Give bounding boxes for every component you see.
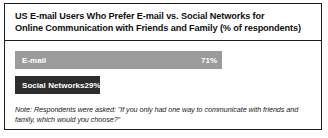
bar-value-email: 71% bbox=[201, 56, 217, 65]
chart-note-line-1: Note: Respondents were asked: "If you on… bbox=[15, 105, 309, 115]
bar-track-social-networks: Social Networks 29% bbox=[15, 76, 307, 94]
chart-note-line-2: family, which would you choose?" bbox=[15, 115, 309, 125]
page-title-line-2: Online Communication with Friends and Fa… bbox=[15, 22, 312, 34]
bar-label-email: E-mail bbox=[22, 56, 46, 65]
bar-track-email: E-mail 71% bbox=[15, 51, 307, 69]
chart-note: Note: Respondents were asked: "If you on… bbox=[5, 101, 321, 124]
bar-value-social-networks: 29% bbox=[85, 81, 101, 90]
bar-email: E-mail 71% bbox=[15, 51, 222, 69]
chart-plot-area: E-mail 71% Social Networks 29% bbox=[5, 41, 321, 94]
bar-social-networks: Social Networks 29% bbox=[15, 76, 100, 94]
bar-label-social-networks: Social Networks bbox=[22, 81, 85, 90]
page-title-line-1: US E-mail Users Who Prefer E-mail vs. So… bbox=[15, 10, 312, 22]
chart-card: US E-mail Users Who Prefer E-mail vs. So… bbox=[4, 3, 322, 130]
chart-title-block: US E-mail Users Who Prefer E-mail vs. So… bbox=[5, 4, 321, 41]
